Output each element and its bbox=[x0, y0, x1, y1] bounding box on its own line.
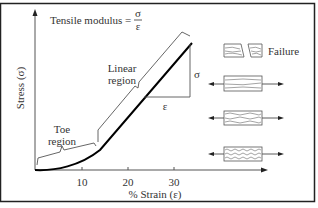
x-tick-10: 10 bbox=[77, 176, 89, 188]
fiber-failure-icon bbox=[224, 44, 262, 57]
fiber-straight-icon bbox=[208, 76, 284, 91]
linear-region-label-line2: region bbox=[108, 74, 137, 86]
y-axis-arrow-icon bbox=[33, 9, 38, 16]
stress-strain-diagram: 10 20 30 % Strain (ε) Stress (σ) Tensile… bbox=[0, 0, 318, 208]
x-axis-arrow-icon bbox=[261, 168, 268, 173]
fiber-slightly-crimped-icon bbox=[208, 111, 284, 125]
toe-region-label-line2: region bbox=[48, 135, 77, 147]
y-axis bbox=[33, 9, 38, 170]
x-tick-30: 30 bbox=[169, 176, 181, 188]
y-axis-label: Stress (σ) bbox=[14, 67, 27, 110]
x-axis-label: % Strain (ε) bbox=[129, 188, 182, 201]
toe-region-label-line1: Toe bbox=[54, 123, 70, 135]
figure-border bbox=[1, 4, 315, 202]
linear-region-label-line1: Linear bbox=[108, 62, 137, 74]
triangle-sigma-label: σ bbox=[194, 68, 200, 80]
formula-denominator: ε bbox=[136, 20, 141, 32]
failure-label: Failure bbox=[268, 45, 299, 57]
x-tick-20: 20 bbox=[123, 176, 135, 188]
fiber-crimped-icon bbox=[208, 147, 284, 161]
linear-region-bracket bbox=[98, 32, 190, 142]
x-axis bbox=[35, 167, 268, 173]
formula-label: Tensile modulus = bbox=[50, 14, 131, 26]
formula-numerator: σ bbox=[135, 7, 141, 19]
triangle-epsilon-label: ε bbox=[163, 100, 168, 112]
